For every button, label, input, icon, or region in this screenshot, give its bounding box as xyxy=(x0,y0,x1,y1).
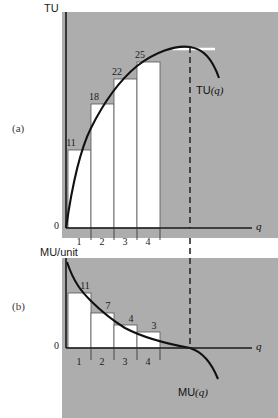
bar-value-tu-3: 22 xyxy=(108,66,126,77)
x-tick-label-b-4: 4 xyxy=(141,356,155,367)
x-tick-label-a-4: 4 xyxy=(141,236,155,247)
panel-label-a: (a) xyxy=(12,122,24,134)
x-tick-label-b-3: 3 xyxy=(118,356,132,367)
bar-value-mu-1: 11 xyxy=(76,280,94,291)
bar-value-tu-2: 18 xyxy=(85,91,103,102)
bar-value-mu-4: 3 xyxy=(145,320,163,331)
curve-label-mu: MU(q) xyxy=(178,386,208,398)
x-tick-label-a-1: 1 xyxy=(72,236,86,247)
x-axis-label-panel-b: q xyxy=(256,340,262,352)
x-axis-label-panel-a: q xyxy=(256,220,262,232)
origin-label-panel-a: 0 xyxy=(54,220,59,231)
x-tick-label-a-3: 3 xyxy=(118,236,132,247)
curve-label-tu-arg: (q) xyxy=(211,84,224,96)
bar-value-mu-3: 4 xyxy=(122,313,140,324)
x-tick-label-b-1: 1 xyxy=(72,356,86,367)
utility-figure: (a) (b) TU MU/unit xyxy=(0,0,278,418)
curve-label-mu-text: MU xyxy=(178,386,195,398)
x-tick-label-b-2: 2 xyxy=(95,356,109,367)
curve-label-tu-text: TU xyxy=(196,84,211,96)
origin-label-panel-b: 0 xyxy=(54,340,59,351)
curve-label-mu-arg: (q) xyxy=(195,386,208,398)
curve-label-tu: TU(q) xyxy=(196,84,224,96)
plot-area-panel-b xyxy=(62,258,278,418)
x-tick-label-a-2: 2 xyxy=(95,236,109,247)
plot-area-panel-a xyxy=(62,12,278,238)
bar-value-tu-1: 11 xyxy=(62,137,80,148)
bar-value-tu-4: 25 xyxy=(131,49,149,60)
panel-label-b: (b) xyxy=(12,300,25,312)
y-axis-label-tu: TU xyxy=(44,2,59,14)
y-axis-label-mu: MU/unit xyxy=(40,246,78,258)
bar-value-mu-2: 7 xyxy=(99,300,117,311)
